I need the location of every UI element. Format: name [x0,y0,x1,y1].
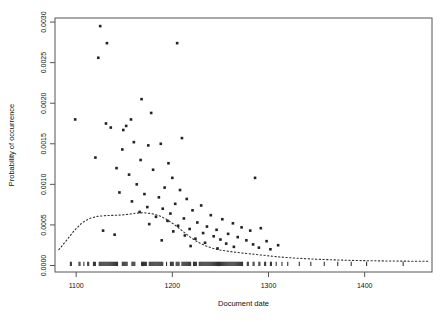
y-tick-label: 0.0025 [40,52,47,74]
data-point [121,148,124,151]
data-point [113,233,116,236]
figure-container: 1100120013001400 0.00000.00050.00100.001… [0,0,444,322]
data-point [184,234,187,237]
y-tick-label: 0.0010 [40,174,47,196]
data-point [171,177,174,180]
x-tick-label: 1200 [165,282,181,289]
data-point [181,137,184,140]
data-point [138,211,141,214]
data-point [260,227,263,230]
data-point [196,221,199,224]
scatter-plot: 1100120013001400 0.00000.00050.00100.001… [0,0,444,322]
data-point [158,196,161,199]
x-tick-label: 1100 [69,282,84,289]
data-point [216,247,219,250]
data-point [140,98,143,101]
data-point [206,225,209,228]
data-point [254,177,257,180]
data-point [252,243,255,246]
density-curve [59,213,430,262]
data-point [125,125,128,128]
y-axis-title: Probability of occurrence [7,104,16,187]
data-point [174,203,177,206]
data-point [249,229,252,232]
plot-frame [55,18,432,272]
data-point [191,209,194,212]
data-point [159,142,162,145]
y-tick-label: 0.0005 [40,214,47,236]
x-axis-ticks: 1100120013001400 [69,272,373,289]
data-point [176,42,179,45]
data-point [163,186,166,189]
data-point [146,206,149,209]
data-point [148,223,151,226]
data-point [269,248,272,251]
x-axis-title: Document date [218,299,269,308]
y-tick-label: 0.0015 [40,133,47,155]
data-point [109,126,112,129]
data-point [212,235,215,238]
data-point [194,237,197,240]
data-point [97,56,100,59]
data-points [74,25,280,251]
data-point [94,156,97,159]
data-point [188,228,191,231]
data-point [177,224,180,227]
data-point [215,229,218,232]
data-point [202,232,205,235]
data-point [233,246,236,249]
data-point [265,240,268,243]
data-point [189,245,192,248]
data-point [135,183,138,186]
data-point [240,226,243,229]
data-point [106,42,109,45]
y-axis-ticks: 0.00000.00050.00100.00150.00200.00250.00… [40,11,55,276]
data-point [150,112,153,115]
data-point [161,207,164,210]
data-point [115,167,118,170]
x-tick-label: 1300 [261,282,277,289]
data-point [172,230,175,233]
data-point [204,241,207,244]
data-point [232,222,235,225]
data-point [143,193,146,196]
data-point [160,239,163,242]
data-point [133,141,136,144]
data-point [210,214,213,217]
data-point [118,191,121,194]
data-point [236,236,239,239]
data-point [155,216,158,219]
data-point [99,25,102,28]
data-point [221,218,224,221]
data-point [139,159,142,162]
y-tick-label: 0.0030 [40,11,47,33]
data-point [179,189,182,192]
y-tick-label: 0.0000 [40,255,47,277]
data-point [169,212,172,215]
data-point [166,220,169,223]
data-point [185,198,188,201]
data-point [245,239,248,242]
data-point [225,242,228,245]
data-point [131,200,134,203]
data-point [152,168,155,171]
data-point [227,233,230,236]
y-tick-label: 0.0020 [40,92,47,114]
data-point [258,246,261,249]
rug-marks [70,262,403,266]
data-point [128,173,131,176]
data-point [167,162,170,165]
data-point [277,244,280,247]
data-point [74,118,77,121]
data-point [105,122,108,125]
x-tick-label: 1400 [357,282,373,289]
data-point [102,229,105,232]
data-point [122,129,125,132]
data-point [219,238,222,241]
data-point [130,118,133,121]
data-point [183,217,186,220]
data-point [147,144,150,147]
data-point [200,204,203,207]
